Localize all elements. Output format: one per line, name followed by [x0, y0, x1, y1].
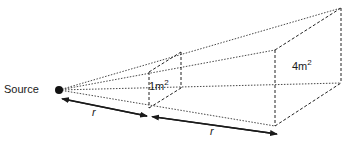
source-label: Source [4, 83, 39, 95]
distance-label-2: r [210, 125, 214, 137]
diagram-lines [0, 0, 358, 146]
far-area-label: 4m2 [292, 60, 312, 72]
inverse-square-diagram: Source 1m2 4m2 r r [0, 0, 358, 146]
distance-label-1: r [92, 106, 96, 118]
near-area-label: 1m2 [149, 80, 169, 92]
source-point [55, 86, 63, 94]
